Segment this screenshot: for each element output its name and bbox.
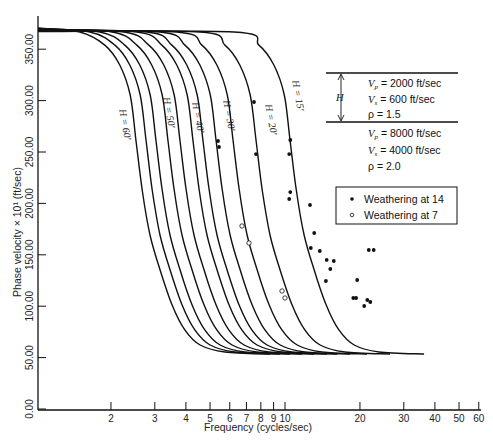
filled-data-point <box>318 249 322 253</box>
lower-rho: ρ = 2.0 <box>368 160 401 172</box>
x-tick-label: 50 <box>453 413 465 424</box>
dispersion-chart: 0.0050.00100.00150.00200.00250.00300.003… <box>0 0 493 445</box>
lower-vp: Vp= 8000 ft/sec <box>368 127 441 141</box>
y-axis-title: Phase velocity × 10¹ (ft/sec) <box>11 167 23 297</box>
x-tick-label: 30 <box>398 413 410 424</box>
dispersion-curve <box>38 28 270 354</box>
x-tick-label: 40 <box>429 413 441 424</box>
open-data-point <box>240 224 244 228</box>
y-tick-label: 350.00 <box>24 33 35 64</box>
lower-vs: Vs= 4000 ft/sec <box>368 144 441 158</box>
filled-data-point <box>372 248 376 252</box>
filled-data-point <box>328 267 332 271</box>
filled-data-point <box>362 304 366 308</box>
dispersion-curve <box>38 31 367 354</box>
y-tick-label: 0.00 <box>24 399 35 419</box>
dispersion-curve <box>38 28 280 354</box>
curve-label: H = 40′ <box>190 100 207 134</box>
upper-vp: Vp= 2000 ft/sec <box>368 77 441 91</box>
filled-data-point <box>312 231 316 235</box>
curve-label: H = 15′ <box>290 78 307 112</box>
filled-data-point <box>217 145 221 149</box>
y-tick-label: 150.00 <box>24 239 35 270</box>
filled-data-point <box>288 138 292 142</box>
layer-model: H Vp= 2000 ft/sec Vs= 600 ft/sec ρ = 1.5… <box>326 73 458 172</box>
filled-data-point <box>287 152 291 156</box>
filled-data-point <box>355 278 359 282</box>
filled-data-point <box>351 296 355 300</box>
h-label: H <box>335 92 345 103</box>
legend-open-label: Weathering at 7 <box>364 209 438 221</box>
upper-rho: ρ = 1.5 <box>368 108 401 120</box>
legend-filled-label: Weathering at 14 <box>364 193 444 205</box>
x-tick-label: 2 <box>108 413 114 424</box>
filled-data-point <box>309 246 313 250</box>
curve-label: H = 20′ <box>263 102 280 136</box>
y-tick-label: 100.00 <box>24 290 35 321</box>
filled-data-point <box>287 197 291 201</box>
upper-vs: Vs= 600 ft/sec <box>368 93 435 107</box>
curve-label: H = 30′ <box>221 98 238 132</box>
y-tick-label: 50.00 <box>24 345 35 370</box>
filled-data-point <box>254 152 258 156</box>
dispersion-curve <box>38 30 314 355</box>
dispersion-curve <box>38 30 350 354</box>
filled-data-point <box>324 279 328 283</box>
y-ticks: 0.0050.00100.00150.00200.00250.00300.003… <box>24 33 46 418</box>
open-data-point <box>280 289 284 293</box>
filled-data-point <box>332 259 336 263</box>
filled-data-point <box>367 248 371 252</box>
filled-data-point <box>308 203 312 207</box>
filled-data-point <box>368 300 372 304</box>
open-data-point <box>283 296 287 300</box>
curve-label: H = 60′ <box>117 107 134 141</box>
legend: Weathering at 14 Weathering at 7 <box>336 187 457 224</box>
filled-data-point <box>252 100 256 104</box>
y-tick-label: 200.00 <box>24 188 35 219</box>
x-axis-title: Frequency (cycles/sec) <box>204 421 312 433</box>
y-tick-label: 250.00 <box>24 136 35 167</box>
x-tick-label: 60 <box>473 413 485 424</box>
x-tick-label: 4 <box>183 413 189 424</box>
x-tick-label: 20 <box>354 413 366 424</box>
y-tick-label: 300.00 <box>24 85 35 116</box>
filled-data-point <box>325 258 329 262</box>
filled-data-point <box>288 190 292 194</box>
open-dot-icon <box>350 213 354 217</box>
open-data-point <box>247 241 251 245</box>
x-tick-label: 3 <box>152 413 158 424</box>
filled-data-point <box>216 139 220 143</box>
filled-dot-icon <box>350 197 354 201</box>
